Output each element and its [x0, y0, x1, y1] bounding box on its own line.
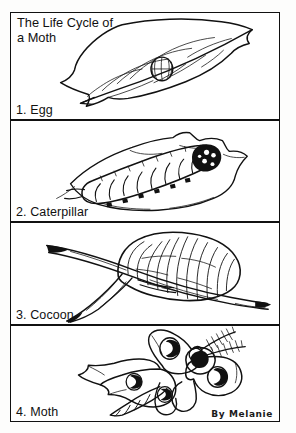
- panel-cocoon: 3. Cocoon: [10, 222, 280, 325]
- panel-label-cocoon: 3. Cocoon: [16, 308, 74, 322]
- panel-label-moth: 4. Moth: [16, 405, 58, 419]
- panel-moth: 4. Moth By Melanie: [10, 325, 280, 422]
- panel-caterpillar: 2. Caterpillar: [10, 120, 280, 222]
- panel-label-caterpillar: 2. Caterpillar: [16, 205, 88, 219]
- artist-signature: By Melanie: [211, 409, 273, 419]
- panel-label-egg: 1. Egg: [16, 103, 53, 117]
- worksheet-sheet: The Life Cycle of a Moth 1. Egg: [0, 0, 296, 433]
- panel-egg: The Life Cycle of a Moth 1. Egg: [10, 12, 280, 120]
- page-title: The Life Cycle of a Moth: [17, 16, 113, 45]
